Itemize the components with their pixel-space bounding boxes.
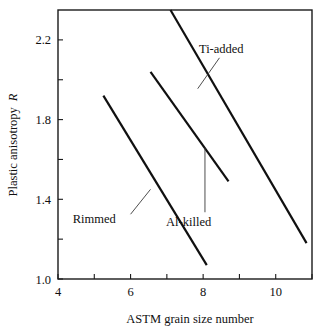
x-tick-label-4: 4 [55,285,62,299]
y-tick-label-1.0: 1.0 [35,273,51,287]
y-axis-title-text: Plastic anisotropy [6,106,20,196]
plot-area: 46810 1.01.41.82.2 RimmedAl-killedTi-add… [0,0,325,336]
series-label-rimmed: Rimmed [73,212,117,226]
x-axis-title: ASTM grain size number [126,312,254,326]
x-tick-label-6: 6 [127,285,133,299]
y-axis-title: Plastic anisotropyR [6,93,20,196]
y-tick-label-1.4: 1.4 [35,193,51,207]
x-tick-label-10: 10 [269,285,282,299]
x-tick-label-8: 8 [200,285,206,299]
y-tick-label-1.8: 1.8 [35,113,51,127]
series-label-ti-added: Ti-added [199,42,244,56]
y-tick-label-2.2: 2.2 [35,33,51,47]
chart-figure: 46810 1.01.41.82.2 RimmedAl-killedTi-add… [0,0,325,336]
series-label-al-killed: Al-killed [166,215,212,229]
y-axis-title-symbol: R [6,93,20,102]
